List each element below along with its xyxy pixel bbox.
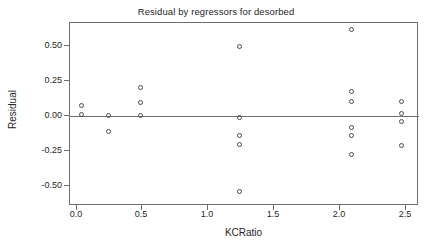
plot-area bbox=[69, 22, 418, 205]
y-tick-mark bbox=[64, 150, 69, 151]
y-tick-label: 0.00 bbox=[26, 110, 62, 120]
y-tick-mark bbox=[64, 45, 69, 46]
chart-title: Residual by regressors for desorbed bbox=[0, 6, 432, 17]
y-tick-label: 0.50 bbox=[26, 40, 62, 50]
x-tick-label: 1.0 bbox=[187, 209, 227, 220]
y-tick-mark bbox=[64, 185, 69, 186]
x-tick-label: 2.5 bbox=[385, 209, 425, 220]
y-tick-mark bbox=[64, 80, 69, 81]
y-tick-label: -0.50 bbox=[26, 180, 62, 190]
y-tick: 0.00 bbox=[22, 110, 62, 120]
residual-scatter-chart: Residual by regressors for desorbed 0.50… bbox=[0, 0, 432, 251]
x-axis-title: KCRatio bbox=[69, 227, 418, 238]
y-tick-mark bbox=[64, 115, 69, 116]
data-point bbox=[399, 99, 404, 104]
data-point bbox=[399, 111, 404, 116]
y-tick: 0.50 bbox=[22, 40, 62, 50]
y-tick: -0.25 bbox=[22, 145, 62, 155]
zero-reference-line bbox=[69, 116, 419, 117]
x-tick-label: 0.5 bbox=[121, 209, 161, 220]
data-point bbox=[237, 115, 242, 120]
y-tick-label: -0.25 bbox=[26, 145, 62, 155]
y-tick: 0.25 bbox=[22, 75, 62, 85]
x-tick-label: 2.0 bbox=[319, 209, 359, 220]
y-tick: -0.50 bbox=[22, 180, 62, 190]
data-point bbox=[349, 89, 354, 94]
x-tick-label: 1.5 bbox=[253, 209, 293, 220]
y-axis-title: Residual bbox=[7, 70, 18, 150]
data-point bbox=[106, 113, 111, 118]
y-tick-label: 0.25 bbox=[26, 75, 62, 85]
data-point bbox=[106, 129, 111, 134]
x-tick-label: 0.0 bbox=[56, 209, 96, 220]
data-point bbox=[349, 99, 354, 104]
